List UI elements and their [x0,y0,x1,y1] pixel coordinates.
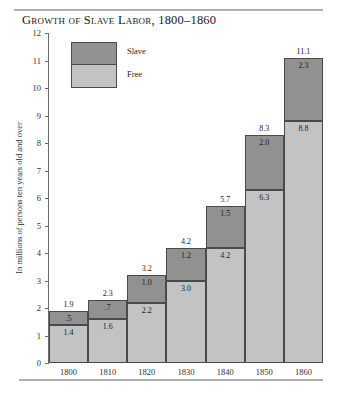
bar-group[interactable]: 1.4.51.9 [49,311,88,363]
bar-segment-slave[interactable]: 2.3 [284,58,323,121]
bar-segment-free[interactable]: 3.0 [166,281,205,364]
x-tick-label: 1850 [245,367,284,377]
bar-value-slave: .5 [50,314,87,323]
x-tick-label: 1820 [127,367,166,377]
bar-value-slave: 2.3 [285,61,322,70]
bar-value-free: 1.6 [89,322,126,331]
y-tick-label: 8 [37,138,41,148]
legend-label-free: Free [127,69,142,79]
legend-swatch-free [72,65,116,87]
bar-segment-free[interactable]: 2.2 [127,303,166,364]
bar-segment-slave[interactable]: .7 [88,300,127,319]
bar-value-slave: 2.0 [246,138,283,147]
bar-group[interactable]: 3.01.24.2 [166,248,205,364]
bar-segment-slave[interactable]: 1.5 [206,206,245,247]
y-tick-label: 6 [37,193,41,203]
bar-group[interactable]: 4.21.55.7 [206,206,245,363]
bar-value-slave: 1.2 [167,251,204,260]
y-tick-label: 12 [33,28,42,38]
bar-value-free: 2.2 [128,306,165,315]
top-divider [14,9,323,11]
bar-value-total: 3.2 [127,264,166,273]
y-tick-label: 11 [33,56,41,66]
bar-value-free: 1.4 [50,328,87,337]
x-tick-label: 1830 [166,367,205,377]
bar-value-slave: 1.0 [128,278,165,287]
chart-figure: Growth of Slave Labor, 1800–1860 In mill… [0,0,337,395]
y-axis-title: In millions of persons ten years old and… [12,33,26,363]
y-tick-mark [45,363,49,364]
y-tick-label: 4 [37,248,41,258]
y-tick-label: 1 [37,331,41,341]
bar-value-slave: 1.5 [207,209,244,218]
y-tick-label: 7 [37,166,41,176]
y-tick-label: 9 [37,111,41,121]
bar-group[interactable]: 6.32.08.3 [245,135,284,363]
bar-value-total: 5.7 [206,195,245,204]
bar-value-total: 8.3 [245,124,284,133]
y-tick-label: 2 [37,303,41,313]
bar-segment-slave[interactable]: 1.2 [166,248,205,281]
bar-value-free: 3.0 [167,284,204,293]
bar-group[interactable]: 1.6.72.3 [88,300,127,363]
bottom-divider [19,379,323,381]
bar-segment-free[interactable]: 6.3 [245,190,284,363]
legend-swatch-slave [72,43,116,65]
y-tick-label: 10 [33,83,42,93]
x-tick-label: 1800 [49,367,88,377]
y-tick-label: 0 [37,358,41,368]
y-axis-title-text: In millions of persons ten years old and… [14,122,24,274]
bar-value-total: 1.9 [49,300,88,309]
bar-value-slave: .7 [89,303,126,312]
x-tick-label: 1860 [284,367,323,377]
bar-segment-free[interactable]: 1.6 [88,319,127,363]
bar-segment-free[interactable]: 8.8 [284,121,323,363]
legend-swatch-box [71,42,117,88]
bar-value-free: 6.3 [246,193,283,202]
bar-segment-slave[interactable]: 1.0 [127,275,166,303]
legend-label-slave: Slave [127,46,146,56]
bar-group[interactable]: 2.21.03.2 [127,275,166,363]
bar-value-total: 11.1 [284,47,323,56]
x-tick-label: 1840 [206,367,245,377]
y-tick-label: 5 [37,221,41,231]
bar-segment-free[interactable]: 4.2 [206,248,245,364]
bar-segment-free[interactable]: 1.4 [49,325,88,364]
bar-group[interactable]: 8.82.311.1 [284,58,323,363]
bar-value-free: 4.2 [207,251,244,260]
bar-value-total: 4.2 [166,237,205,246]
chart-title: Growth of Slave Labor, 1800–1860 [22,13,216,28]
y-tick-label: 3 [37,276,41,286]
bar-segment-slave[interactable]: 2.0 [245,135,284,190]
x-tick-label: 1810 [88,367,127,377]
bar-value-free: 8.8 [285,124,322,133]
bar-segment-slave[interactable]: .5 [49,311,88,325]
bar-value-total: 2.3 [88,289,127,298]
